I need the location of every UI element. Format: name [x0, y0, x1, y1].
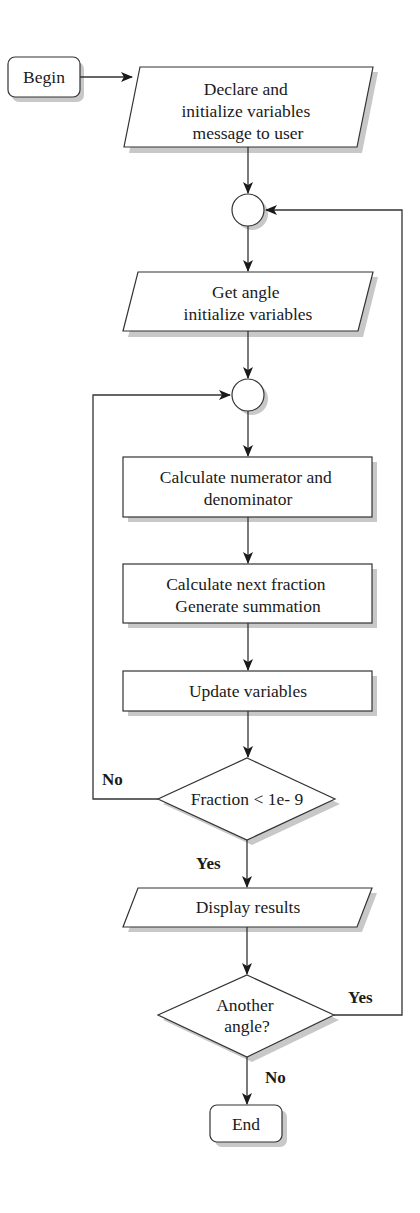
flowchart: Begin Declare and initialize variables m… — [0, 0, 420, 1213]
junction1-connector — [232, 194, 268, 230]
another-angle-text: Another angle? — [216, 995, 278, 1036]
update-node: Update variables — [123, 671, 377, 716]
display-text: Display results — [196, 897, 301, 917]
fraction-no-label: No — [102, 770, 123, 789]
display-node: Display results — [123, 888, 377, 932]
update-text: Update variables — [189, 681, 307, 701]
another-yes-label: Yes — [348, 988, 373, 1007]
end-label: End — [232, 1114, 260, 1134]
begin-label: Begin — [23, 67, 65, 87]
get-angle-node: Get angle initialize variables — [123, 272, 378, 337]
begin-node: Begin — [8, 57, 84, 102]
fraction-check-decision: Fraction < 1e- 9 — [158, 758, 340, 845]
calc-fraction-node: Calculate next fraction Generate summati… — [123, 564, 377, 628]
calc-num-den-node: Calculate numerator and denominator — [123, 457, 377, 522]
junction2-connector — [232, 379, 268, 415]
declare-node: Declare and initialize variables message… — [124, 67, 378, 153]
fraction-check-text: Fraction < 1e- 9 — [191, 789, 304, 809]
end-node: End — [210, 1105, 287, 1147]
another-no-label: No — [265, 1068, 286, 1087]
another-angle-decision: Another angle? — [158, 975, 339, 1062]
fraction-yes-label: Yes — [196, 854, 221, 873]
